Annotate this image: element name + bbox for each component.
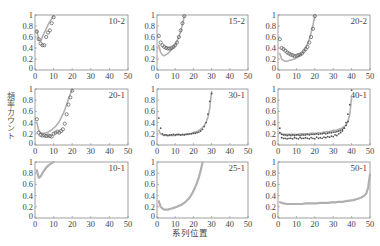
- data-point: [189, 133, 191, 135]
- data-point: [323, 132, 325, 134]
- data-point: [63, 122, 66, 125]
- y-tick-label: 1: [272, 157, 276, 167]
- x-tick-label: 10: [171, 146, 180, 156]
- data-point: [305, 137, 307, 139]
- y-tick-label: 0.6: [22, 106, 33, 116]
- y-tick-label: 0.6: [265, 32, 276, 42]
- x-tick-label: 10: [49, 71, 58, 81]
- data-point: [279, 127, 281, 129]
- data-point: [290, 135, 292, 137]
- data-point: [347, 113, 349, 115]
- y-tick-label: 0.8: [265, 95, 276, 105]
- y-tick-label: 0.2: [22, 202, 33, 212]
- data-point: [330, 135, 332, 137]
- y-tick-label: 0.2: [144, 129, 155, 139]
- y-tick-label: 1: [151, 157, 155, 167]
- data-point: [342, 130, 344, 132]
- x-tick-label: 0: [276, 146, 280, 156]
- data-point: [187, 133, 189, 135]
- x-tick-label: 20: [311, 71, 320, 81]
- x-tick-label: 20: [68, 146, 77, 156]
- data-point: [284, 137, 286, 139]
- series-line-model: [37, 162, 54, 178]
- figure-grid: 00.20.40.60.810102030405010-200.20.40.60…: [0, 0, 380, 246]
- panel-label: 30-1: [229, 90, 246, 100]
- x-tick-label: 30: [87, 71, 96, 81]
- y-axis-label: 頻率カウント: [4, 92, 14, 140]
- data-point: [286, 138, 288, 140]
- data-point: [35, 118, 38, 121]
- panel-20-2: 00.20.40.60.810102030405020-2: [265, 10, 374, 81]
- y-tick-label: 0.6: [144, 32, 155, 42]
- data-point: [278, 38, 281, 41]
- data-point: [312, 133, 314, 135]
- data-point: [182, 133, 184, 135]
- series-line-model: [280, 97, 352, 134]
- data-point: [327, 132, 329, 134]
- x-tick-label: 50: [124, 146, 133, 156]
- data-point: [310, 137, 312, 139]
- data-point: [178, 133, 180, 135]
- y-tick-label: 0.8: [22, 168, 33, 178]
- y-tick-label: 1: [272, 84, 276, 94]
- y-tick-label: 0.2: [22, 54, 33, 64]
- x-tick-label: 10: [292, 71, 301, 81]
- x-tick-label: 0: [276, 71, 280, 81]
- panel-15-2: 00.20.40.60.810102030405015-2: [144, 10, 252, 81]
- x-tick-label: 40: [347, 71, 356, 81]
- data-point: [165, 134, 167, 136]
- data-point: [207, 113, 209, 115]
- data-point: [307, 137, 309, 139]
- data-point: [281, 133, 283, 135]
- y-tick-label: 0.6: [22, 32, 33, 42]
- data-point: [200, 130, 202, 132]
- x-tick-label: 50: [366, 71, 375, 81]
- series-line-model: [37, 90, 72, 134]
- data-point: [299, 135, 301, 137]
- data-point: [286, 135, 288, 137]
- data-point: [294, 137, 296, 139]
- data-point: [176, 133, 178, 135]
- data-point: [191, 133, 193, 135]
- y-tick-label: 0.8: [144, 95, 155, 105]
- panel-20-1: 00.20.40.60.810102030405020-1: [22, 84, 132, 156]
- y-tick-label: 0.2: [144, 54, 155, 64]
- y-tick-label: 0.8: [22, 95, 33, 105]
- data-point: [303, 134, 305, 136]
- data-point: [294, 135, 296, 137]
- x-tick-label: 50: [244, 146, 253, 156]
- data-point: [318, 137, 320, 139]
- y-tick-label: 0.4: [22, 118, 33, 128]
- y-tick-label: 0.6: [265, 179, 276, 189]
- x-tick-label: 50: [366, 146, 375, 156]
- data-point: [279, 132, 281, 134]
- data-point: [211, 93, 213, 95]
- y-tick-label: 0.6: [22, 179, 33, 189]
- y-tick-label: 1: [151, 10, 155, 20]
- data-point: [296, 134, 298, 136]
- y-tick-label: 0.8: [144, 21, 155, 31]
- panel-40-1: 00.20.40.60.810102030405040-1: [265, 84, 374, 156]
- data-point: [297, 138, 299, 140]
- panel-label: 20-2: [351, 16, 368, 26]
- data-point: [329, 132, 331, 134]
- x-tick-label: 0: [33, 146, 37, 156]
- x-tick-label: 30: [87, 146, 96, 156]
- x-tick-label: 30: [329, 146, 338, 156]
- x-tick-label: 0: [155, 71, 159, 81]
- data-point: [180, 134, 182, 136]
- data-point: [332, 136, 334, 138]
- panel-10-1: 00.20.40.60.810102030405010-1: [22, 157, 132, 229]
- y-tick-label: 0.2: [265, 129, 276, 139]
- y-tick-label: 0.2: [265, 202, 276, 212]
- x-tick-label: 20: [189, 146, 198, 156]
- x-tick-label: 50: [124, 71, 133, 81]
- data-point: [283, 137, 285, 139]
- data-point: [340, 132, 342, 134]
- x-tick-label: 40: [347, 146, 356, 156]
- data-point: [343, 127, 345, 129]
- data-point: [292, 134, 294, 136]
- panel-label: 25-1: [229, 163, 246, 173]
- data-point: [299, 137, 301, 139]
- data-point: [321, 133, 323, 135]
